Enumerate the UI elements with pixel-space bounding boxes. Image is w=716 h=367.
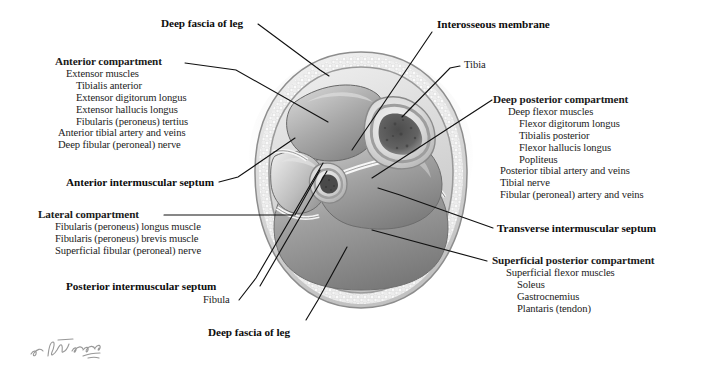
label-fibula: Fibula <box>203 294 230 305</box>
superficial-posterior-item-2: Gastrocnemius <box>492 291 654 303</box>
label-deep-fascia-of-leg-top: Deep fascia of leg <box>161 17 243 29</box>
deep-posterior-compartment-title: Deep posterior compartment <box>493 94 644 106</box>
superficial-posterior-title: Superficial posterior compartment <box>492 255 654 267</box>
anterior-compartment-item-1: Tibialis anterior <box>44 80 239 92</box>
label-anterior-intermuscular-septum: Anterior intermuscular septum <box>66 176 214 188</box>
artist-signature <box>28 332 114 362</box>
superficial-posterior-item-0: Superficial flexor muscles <box>492 267 654 279</box>
lateral-compartment-item-2: Superficial fibular (peroneal) nerve <box>38 245 201 257</box>
label-interosseous-membrane: Interosseous membrane <box>437 18 550 30</box>
deep-posterior-item-2: Tibialis posterior <box>493 130 644 142</box>
label-posterior-intermuscular-septum: Posterior intermuscular septum <box>66 280 216 292</box>
anterior-compartment-item-6: Deep fibular (peroneal) nerve <box>44 139 239 151</box>
deep-posterior-item-4: Popliteus <box>493 154 644 166</box>
deep-posterior-item-5: Posterior tibial artery and veins <box>493 165 644 177</box>
lateral-compartment-item-1: Fibularis (peroneus) brevis muscle <box>38 233 201 245</box>
lateral-compartment-item-0: Fibularis (peroneus) longus muscle <box>38 221 201 233</box>
label-transverse-intermuscular-septum: Transverse intermuscular septum <box>497 222 656 234</box>
deep-posterior-item-6: Tibial nerve <box>493 177 644 189</box>
figure-canvas: Deep fascia of leg Interosseous membrane… <box>0 0 716 367</box>
lateral-compartment-title: Lateral compartment <box>38 209 201 221</box>
deep-posterior-compartment-block: Deep posterior compartment Deep flexor m… <box>493 94 644 201</box>
lateral-compartment-block: Lateral compartment Fibularis (peroneus)… <box>38 209 201 257</box>
leg-cross-section-illustration <box>237 36 487 326</box>
anterior-compartment-block: Anterior compartment Extensor muscles Ti… <box>44 56 239 151</box>
label-deep-fascia-of-leg-bottom: Deep fascia of leg <box>208 326 290 338</box>
deep-posterior-item-3: Flexor hallucis longus <box>493 142 644 154</box>
superficial-posterior-item-1: Soleus <box>492 279 654 291</box>
deep-posterior-item-7: Fibular (peroneal) artery and veins <box>493 189 644 201</box>
label-tibia: Tibia <box>464 59 486 70</box>
anterior-compartment-item-3: Extensor hallucis longus <box>44 104 239 116</box>
deep-posterior-item-0: Deep flexor muscles <box>493 106 644 118</box>
superficial-posterior-item-3: Plantaris (tendon) <box>492 303 654 315</box>
anterior-compartment-title: Anterior compartment <box>44 56 239 68</box>
deep-posterior-item-1: Flexor digitorum longus <box>493 118 644 130</box>
anterior-compartment-item-2: Extensor digitorum longus <box>44 92 239 104</box>
superficial-posterior-compartment-block: Superficial posterior compartment Superf… <box>492 255 654 315</box>
anterior-compartment-item-0: Extensor muscles <box>44 68 239 80</box>
anterior-compartment-item-4: Fibularis (peroneus) tertius <box>44 116 239 128</box>
anterior-compartment-item-5: Anterior tibial artery and veins <box>44 127 239 139</box>
